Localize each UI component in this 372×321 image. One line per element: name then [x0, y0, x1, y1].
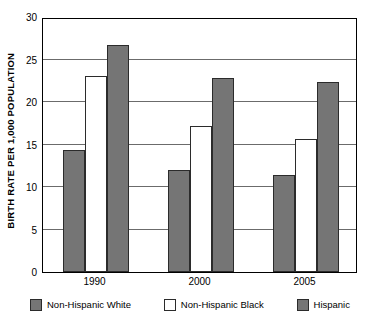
legend-swatch-icon — [297, 299, 309, 311]
x-axis-tick-label-2005: 2005 — [293, 275, 315, 289]
y-axis-tick-label: 15 — [26, 141, 37, 151]
bar-hispanic-2000 — [212, 78, 234, 272]
y-axis-tick-label: 10 — [26, 183, 37, 193]
y-axis-tick-label: 5 — [31, 226, 37, 236]
legend-item-non-hispanic-white[interactable]: Non-Hispanic White — [30, 299, 131, 311]
y-axis-tick-label: 30 — [26, 13, 37, 23]
legend-swatch-icon — [164, 299, 176, 311]
y-axis-tick-labels: 051015202530 — [18, 0, 40, 281]
x-axis-tick-labels: 199020002005 — [42, 275, 357, 291]
y-axis-tick-label: 20 — [26, 98, 37, 108]
chart-legend: Non-Hispanic WhiteNon-Hispanic BlackHisp… — [30, 295, 350, 315]
plot-area — [42, 18, 357, 273]
bar-non-hispanic-black-2000 — [190, 126, 212, 272]
bar-non-hispanic-black-2005 — [295, 139, 317, 272]
bar-chart-figure: BIRTH RATE PER 1,000 POPULATION 05101520… — [0, 0, 372, 321]
bars-layer — [43, 19, 356, 272]
bar-non-hispanic-white-1990 — [63, 150, 85, 272]
bar-group-2005 — [253, 19, 358, 272]
y-axis-tick-label: 25 — [26, 56, 37, 66]
bar-non-hispanic-black-1990 — [85, 76, 107, 272]
x-axis-tick-label-1990: 1990 — [83, 275, 105, 289]
bar-non-hispanic-white-2005 — [273, 175, 295, 272]
legend-label: Hispanic — [314, 300, 350, 310]
bar-group-1990 — [43, 19, 148, 272]
y-axis-title-text: BIRTH RATE PER 1,000 POPULATION — [6, 53, 16, 229]
y-axis-tick-label: 0 — [31, 268, 37, 278]
legend-item-non-hispanic-black[interactable]: Non-Hispanic Black — [164, 299, 264, 311]
x-axis-tick-label-2000: 2000 — [188, 275, 210, 289]
legend-label: Non-Hispanic Black — [181, 300, 264, 310]
legend-label: Non-Hispanic White — [47, 300, 131, 310]
legend-swatch-icon — [30, 299, 42, 311]
legend-item-hispanic[interactable]: Hispanic — [297, 299, 350, 311]
bar-group-2000 — [148, 19, 253, 272]
bar-hispanic-1990 — [107, 45, 129, 272]
bar-hispanic-2005 — [317, 82, 339, 272]
bar-non-hispanic-white-2000 — [168, 170, 190, 272]
